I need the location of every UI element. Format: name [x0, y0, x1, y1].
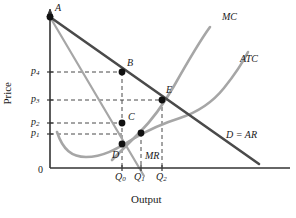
average-total-cost-curve [57, 52, 248, 157]
y-tick-label-p1: p1 [31, 128, 40, 139]
origin-label: 0 [38, 165, 43, 175]
curve-label-mr: MR [145, 151, 159, 161]
point-C [119, 120, 126, 127]
curve-label-demand: D = AR [226, 130, 257, 140]
x-axis-title: Output [131, 194, 162, 205]
data-points [47, 14, 166, 148]
y-tick-label-p4: p4 [31, 66, 40, 77]
demand-line [50, 17, 259, 164]
plot-canvas [0, 0, 296, 218]
point-B [119, 69, 126, 76]
x-tick-label-q0: Q0 [115, 172, 126, 183]
point-A [47, 14, 54, 21]
point-label-B: B [127, 58, 133, 68]
y-tick-label-p3: p3 [31, 94, 40, 105]
point-mc-atc-min [138, 130, 145, 137]
y-axis-title: Price [2, 82, 13, 105]
point-E [159, 97, 166, 104]
economics-diagram: Price Output 0 p4 p3 p2 p1 Q0 Q1 Q2 A B … [0, 0, 296, 218]
point-label-A: A [55, 3, 61, 13]
point-label-E: E [166, 85, 172, 95]
curve-label-atc: ATC [240, 54, 258, 64]
marginal-revenue-line [50, 17, 144, 176]
point-label-C: C [128, 112, 135, 122]
x-tick-label-q1: Q1 [134, 172, 145, 183]
point-D [119, 141, 126, 148]
curve-label-mc: MC [222, 12, 237, 22]
x-tick-label-q2: Q2 [156, 172, 167, 183]
point-label-D: D [112, 150, 119, 160]
